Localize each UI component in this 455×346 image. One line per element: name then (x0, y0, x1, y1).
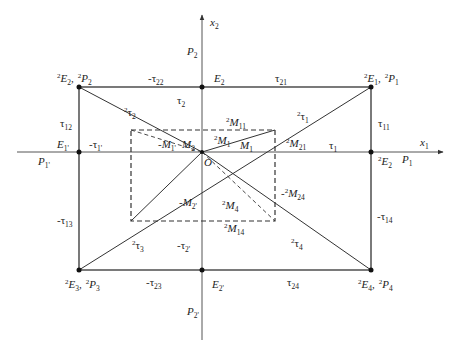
label-E2-top: E2 (213, 72, 225, 87)
label-M2p: -M2' (179, 196, 198, 211)
label-2tau3: 2τ3 (132, 239, 144, 254)
label-2M24: -2M24 (281, 187, 305, 202)
label-2M14: 2M14 (224, 222, 244, 237)
label-E2p-bottom: E2' (211, 278, 224, 293)
point-E2 (200, 85, 205, 90)
label-2M11: 2M11 (226, 116, 246, 131)
label-M2: M2 (181, 138, 195, 153)
label-2M1: 2M1 (214, 134, 231, 149)
label-corner-bl: 2E3,2P3 (65, 278, 100, 293)
stress-state-diagram: x2 x1 P2 P2' P1 P1' 2E2,2P2 2E1,2P1 2E3,… (0, 0, 455, 346)
label-M1p: -M1' (158, 138, 177, 153)
label-tau12: τ12 (60, 117, 72, 132)
dashed-rectangle (131, 130, 275, 221)
point-2E3-2P3 (77, 268, 82, 273)
label-tau21: τ21 (275, 72, 287, 87)
label-tau23: -τ23 (146, 276, 162, 291)
point-2E1-2P1 (369, 85, 374, 90)
label-corner-br: 2E4,2P4 (358, 278, 393, 293)
label-P2p-bottom: P2' (186, 305, 199, 320)
point-2E4-2P4 (369, 268, 374, 273)
label-corner-tr: 2E1,2P1 (364, 72, 399, 87)
label-P1p-left: P1' (37, 155, 50, 170)
label-origin: O (204, 156, 212, 168)
label-2E2-right: 2E2 (378, 155, 392, 170)
label-x2: x2 (209, 16, 219, 31)
point-2E2-2P2 (77, 85, 82, 90)
label-2tau4: 2τ4 (291, 237, 303, 252)
diagonal-tr-bl (79, 87, 371, 270)
label-2M4: 2M4 (222, 199, 239, 214)
label-tau2: τ2 (177, 94, 185, 109)
label-tau1p: -τ1' (89, 138, 103, 153)
label-2M21: 2M21 (286, 137, 306, 152)
label-tau14: -τ14 (377, 210, 393, 225)
point-origin (200, 150, 204, 154)
label-2tau1: 2τ1 (297, 110, 309, 125)
line-o-to-dashed-tr (202, 130, 275, 152)
label-P1-right: P1 (401, 153, 413, 168)
label-E1p-left: E1' (56, 138, 69, 153)
point-E1p (77, 150, 82, 155)
label-corner-tl: 2E2,2P2 (57, 72, 92, 87)
label-2tau2: 2τ2 (124, 106, 136, 121)
point-E2p (200, 268, 205, 273)
label-tau11: τ11 (378, 117, 390, 132)
point-2E2-right (369, 150, 374, 155)
label-tau2p: -τ2' (177, 239, 191, 254)
label-tau13: -τ13 (57, 214, 73, 229)
label-x1: x1 (419, 136, 429, 151)
label-P2-top: P2 (186, 45, 198, 60)
label-tau22: -τ22 (148, 72, 164, 87)
diagonal-o-br (202, 152, 371, 270)
label-tau24: τ24 (287, 276, 299, 291)
